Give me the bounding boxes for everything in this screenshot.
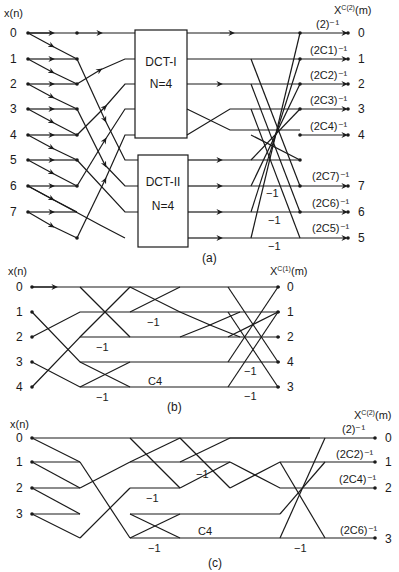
- output-header: XC(1)(m): [270, 263, 307, 277]
- coef-label: (2)⁻¹: [316, 18, 339, 30]
- input-label: 6: [10, 180, 17, 192]
- input-label: 2: [10, 78, 17, 90]
- coef-label: (2C3)⁻¹: [310, 94, 347, 106]
- output-header-sup: C(2): [341, 4, 355, 11]
- output-label: 3: [287, 381, 294, 393]
- input-label: 7: [10, 206, 17, 218]
- neg-one-label: −1: [96, 341, 109, 353]
- input-header: x(n): [4, 7, 23, 19]
- output-label: 0: [358, 27, 365, 39]
- input-label: 1: [10, 53, 17, 65]
- input-label: 2: [16, 331, 23, 343]
- output-label: 1: [385, 456, 392, 468]
- output-label: 1: [287, 306, 294, 318]
- dct-ii-title: DCT-II: [133, 175, 193, 189]
- output-header-tail: (m): [375, 409, 392, 421]
- coef-label: (2C2)⁻¹: [310, 69, 347, 81]
- neg-one-label: −1: [147, 316, 160, 328]
- c4-label: C4: [148, 375, 162, 387]
- neg-one-label: −1: [268, 240, 281, 252]
- input-label: 0: [16, 281, 23, 293]
- flowgraph-lines: [0, 0, 399, 572]
- coef-label: (2C4)⁻¹: [310, 120, 347, 132]
- input-label: 4: [16, 381, 23, 393]
- coef-label: (2C6)⁻¹: [312, 197, 349, 209]
- input-label: 3: [16, 356, 23, 368]
- neg-one-label: −1: [294, 542, 307, 554]
- output-header-tail: (m): [291, 265, 308, 277]
- neg-one-label: −1: [148, 542, 161, 554]
- dct-i-size: N=4: [131, 77, 191, 91]
- caption-b: (b): [167, 400, 182, 414]
- input-label: 0: [16, 432, 23, 444]
- coef-label: (2C7)⁻¹: [312, 170, 349, 182]
- input-label: 0: [10, 27, 17, 39]
- neg-one-label: −1: [244, 390, 257, 402]
- output-header-sup: C(2): [361, 409, 375, 416]
- input-label: 4: [10, 129, 17, 141]
- output-label: 2: [287, 331, 294, 343]
- output-label: 7: [358, 180, 365, 192]
- coef-label: (2C5)⁻¹: [312, 222, 349, 234]
- output-label: 4: [287, 356, 294, 368]
- neg-one-label: −1: [96, 391, 109, 403]
- input-label: 1: [16, 306, 23, 318]
- output-header: XC(2)(m): [334, 2, 371, 16]
- output-label: 3: [385, 533, 392, 545]
- input-label: 3: [16, 508, 23, 520]
- input-header: x(n): [10, 418, 29, 430]
- input-label: 3: [10, 103, 17, 115]
- output-label: 1: [358, 53, 365, 65]
- neg-one-label: −1: [244, 365, 257, 377]
- output-header-tail: (m): [355, 4, 372, 16]
- coef-label: (2C4)⁻¹: [339, 473, 376, 485]
- output-label: 0: [385, 432, 392, 444]
- output-label: 3: [358, 103, 365, 115]
- output-label: 2: [358, 78, 365, 90]
- coef-label: (2C2)⁻¹: [336, 448, 373, 460]
- output-header-sup: C(1): [277, 265, 291, 272]
- coef-label: (2)⁻¹: [342, 423, 365, 435]
- neg-one-label: −1: [196, 468, 209, 480]
- neg-one-label: −1: [146, 492, 159, 504]
- input-label: 5: [10, 154, 17, 166]
- neg-one-label: −1: [266, 187, 279, 199]
- coef-label: (2C6)⁻¹: [340, 524, 377, 536]
- input-label: 1: [16, 456, 23, 468]
- dct-ii-size: N=4: [133, 199, 193, 213]
- caption-a: (a): [202, 251, 217, 265]
- coef-label: (2C1)⁻¹: [310, 44, 347, 56]
- input-header: x(n): [8, 265, 27, 277]
- neg-one-label: −1: [268, 214, 281, 226]
- caption-c: (c): [208, 556, 222, 570]
- c4-label: C4: [198, 525, 212, 537]
- output-label: 4: [358, 129, 365, 141]
- dct-i-title: DCT-I: [131, 55, 191, 69]
- output-label: 6: [358, 206, 365, 218]
- output-label: 2: [385, 482, 392, 494]
- output-label: 5: [358, 232, 365, 244]
- output-label: 0: [287, 281, 294, 293]
- output-header: XC(2)(m): [354, 407, 391, 421]
- input-label: 2: [16, 482, 23, 494]
